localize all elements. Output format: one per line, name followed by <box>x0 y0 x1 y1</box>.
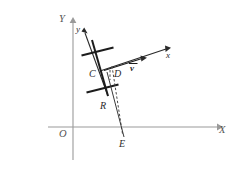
point-label-c: C <box>89 68 96 79</box>
rod-crossbar-upper <box>82 48 114 56</box>
point-label-e: E <box>118 138 125 149</box>
local-axes-group: y x <box>75 24 171 96</box>
diagram-svg: X Y O y x v <box>0 0 244 171</box>
global-x-axis-label: X <box>218 124 226 135</box>
point-label-r: R <box>99 100 106 111</box>
local-y-axis-arrowhead <box>82 28 88 34</box>
global-axes-group: X Y O <box>48 13 226 160</box>
rod-crossbar-lower <box>87 85 119 93</box>
point-labels-group: C D R E <box>89 68 125 149</box>
local-y-axis-label: y <box>75 24 80 34</box>
global-y-axis-arrowhead <box>70 17 77 23</box>
local-x-axis-label: x <box>165 50 170 60</box>
global-origin-label: O <box>59 128 67 139</box>
velocity-vector-line <box>104 59 142 71</box>
velocity-vector-label: v <box>130 63 135 73</box>
global-y-axis-label: Y <box>59 13 66 24</box>
point-label-d: D <box>113 68 122 79</box>
figure-canvas: X Y O y x v <box>0 0 244 171</box>
